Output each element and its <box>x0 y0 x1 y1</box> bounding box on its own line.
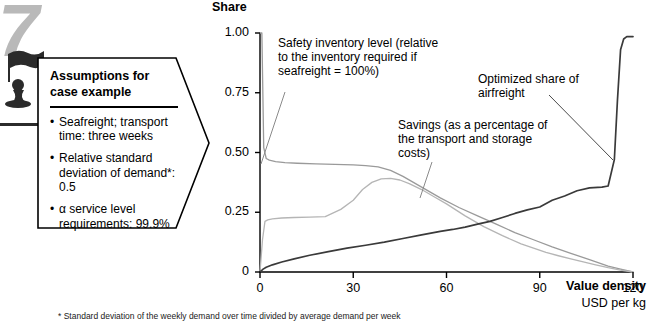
annotation-savings: Savings (as a percentage of the transpor… <box>398 118 558 160</box>
figure-root: 7 Assumptions for case example • Seafrei… <box>0 0 658 329</box>
x-axis-unit: USD per kg <box>446 296 646 310</box>
x-axis-title: Value density <box>446 279 646 293</box>
y-tick-label: 1.00 <box>203 25 249 39</box>
annotation-safety-inventory: Safety inventory level (relative to the … <box>278 36 446 78</box>
annotation-airfreight: Optimized share of airfreight <box>478 72 628 100</box>
y-tick-label: 0.25 <box>203 204 249 218</box>
y-tick-label: 0.75 <box>203 85 249 99</box>
y-tick-label: 0 <box>203 264 249 278</box>
x-tick-label: 0 <box>240 281 280 295</box>
x-tick-label: 30 <box>333 281 373 295</box>
footnote: * Standard deviation of the weekly deman… <box>58 311 401 321</box>
line-chart: Share 00.250.500.751.00 0306090120 Safet… <box>0 0 658 329</box>
y-tick-label: 0.50 <box>203 145 249 159</box>
